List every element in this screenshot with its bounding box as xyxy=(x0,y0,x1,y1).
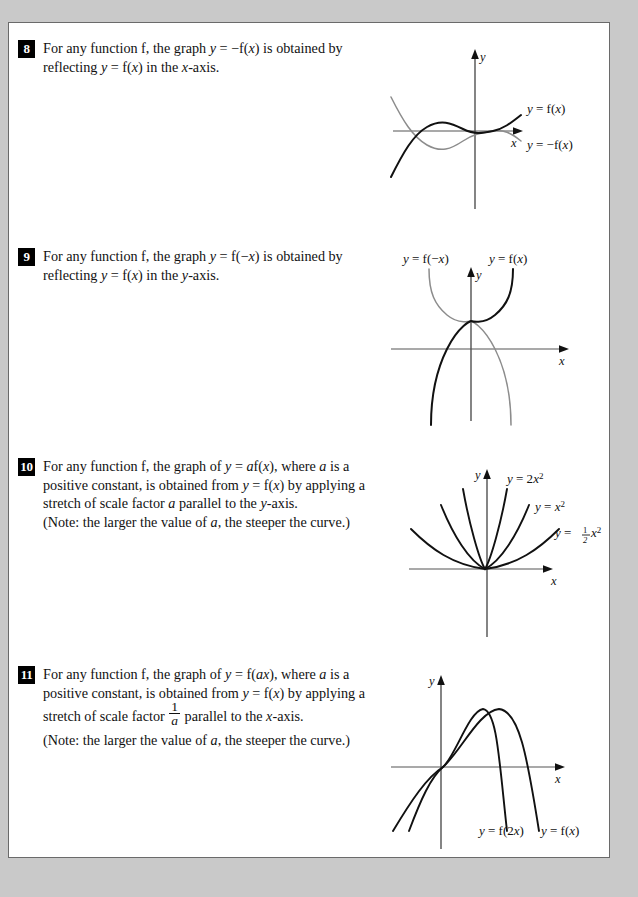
curve-label-half-x-squared: y = xyxy=(553,525,571,540)
item-text-11: For any function f, the graph of y = f(a… xyxy=(43,665,421,749)
x-axis-label: x xyxy=(554,772,561,786)
curve-label-f: y = f(x) xyxy=(539,823,579,838)
textbook-page: 8 For any function f, the graph y = −f(x… xyxy=(8,22,610,858)
curve-label-f: y = f(x) xyxy=(525,101,565,116)
y-axis-label: y xyxy=(427,674,435,688)
item-text-line: For any function f, the graph y = −f(x) … xyxy=(43,39,421,58)
fraction-numerator: 1 xyxy=(169,700,180,714)
item-text-line: positive constant, is obtained from y = … xyxy=(43,476,421,495)
y-axis-arrow xyxy=(467,267,475,277)
item-text-line: (Note: the larger the value of a, the st… xyxy=(43,731,421,750)
horizontal-stretch-graph: y x y = f(2x) y = f(x) xyxy=(387,659,611,863)
x-axis-label: x xyxy=(550,574,557,588)
svg-text:2: 2 xyxy=(583,535,588,545)
curve-label-negative-f: y = −f(x) xyxy=(525,137,573,152)
y-axis-arrow xyxy=(437,675,445,685)
y-axis-arrow xyxy=(483,469,491,479)
item-text-10: For any function f, the graph of y = af(… xyxy=(43,457,421,531)
reflection-in-x-axis-graph: y x y = f(x) y = −f(x) xyxy=(387,37,611,231)
curve-f xyxy=(409,709,539,831)
curve-label-f: y = f(x) xyxy=(487,251,527,266)
item-number-badge-10: 10 xyxy=(18,458,35,476)
curve-half-x-squared xyxy=(411,529,559,569)
y-axis-arrow xyxy=(471,49,479,59)
item-text-8: For any function f, the graph y = −f(x) … xyxy=(43,39,421,76)
item-number-badge-8: 8 xyxy=(18,40,35,58)
curve-label-f-of-two-x: y = f(2x) xyxy=(477,823,524,838)
x-axis-arrow xyxy=(555,763,565,771)
item-text-line: (Note: the larger the value of a, the st… xyxy=(43,513,421,532)
svg-text:x2: x2 xyxy=(590,525,601,540)
y-axis-label: y xyxy=(473,468,481,482)
item-number-badge-11: 11 xyxy=(18,666,35,684)
x-axis-label: x xyxy=(558,354,565,368)
curve-f-of-negative-x xyxy=(429,269,511,425)
y-axis-label: y xyxy=(478,50,486,64)
item-text-9: For any function f, the graph y = f(−x) … xyxy=(43,247,421,284)
curve-x-squared xyxy=(441,505,529,569)
item-number-badge-9: 9 xyxy=(18,248,35,266)
x-axis-arrow xyxy=(543,565,553,573)
item-text-line: reflecting y = f(x) in the y-axis. xyxy=(43,266,421,285)
curve-f xyxy=(431,269,513,425)
reflection-in-y-axis-graph: y = f(−x) y = f(x) y x xyxy=(387,239,611,443)
label-half-fraction: 1 2 x2 xyxy=(582,525,601,545)
item-text-line-with-fraction: stretch of scale factor 1a parallel to t… xyxy=(43,702,421,731)
curve-label-f-of-negative-x: y = f(−x) xyxy=(401,251,449,266)
item-text-line: For any function f, the graph of y = f(a… xyxy=(43,665,421,684)
curve-label-two-x-squared: y = 2x2 xyxy=(505,471,543,486)
svg-text:1: 1 xyxy=(583,525,587,535)
item-text-line: For any function f, the graph y = f(−x) … xyxy=(43,247,421,266)
item-text-line: reflecting y = f(x) in the x-axis. xyxy=(43,58,421,77)
y-axis-label: y xyxy=(474,268,482,282)
vertical-stretch-graph: y x y = 2x2 y = x2 y = 1 2 x2 xyxy=(387,457,611,651)
curve-f-of-two-x xyxy=(393,709,507,831)
item-text-line: positive constant, is obtained from y = … xyxy=(43,684,421,703)
item-text-line: For any function f, the graph of y = af(… xyxy=(43,457,421,476)
fraction-denominator: a xyxy=(169,713,180,728)
one-over-a-fraction: 1a xyxy=(169,700,180,729)
curve-label-x-squared: y = x2 xyxy=(533,499,565,514)
x-axis-arrow xyxy=(559,345,569,353)
item-text-line: stretch of scale factor a parallel to th… xyxy=(43,494,421,513)
x-axis-arrow xyxy=(513,127,523,135)
